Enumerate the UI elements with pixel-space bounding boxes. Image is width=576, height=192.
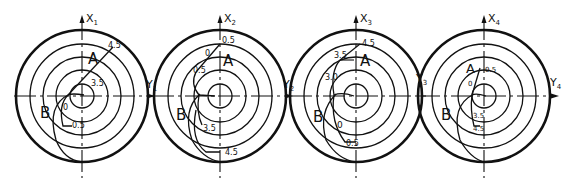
value-label-4d: 4.5: [473, 125, 484, 133]
value-label-4c: 3.5: [473, 112, 484, 120]
polar-diagram-svg: X1 Y1 A B 4.5 3.5 0 0.5 X2 Y2 A B 0.5 0 …: [0, 0, 576, 192]
value-label-4a: 0.5: [485, 66, 496, 74]
value-label-4b: 0: [468, 80, 472, 88]
axis-y-label-3: Y3: [415, 72, 427, 87]
value-label-1a: 4.5: [108, 41, 121, 50]
value-label-2a: 0.5: [222, 36, 235, 45]
diagram-figure: X1 Y1 A B 4.5 3.5 0 0.5 X2 Y2 A B 0.5 0 …: [0, 0, 576, 192]
value-label-3d: 0: [337, 120, 343, 130]
panel-3: [290, 15, 426, 178]
panel-1: [14, 15, 155, 178]
axis-x-label-2: X2: [224, 12, 236, 27]
point-b-label-4: B: [441, 106, 451, 124]
point-a-label-1: A: [88, 50, 99, 68]
value-label-3e: 0.5: [346, 139, 359, 148]
axis-x-label-4: X4: [488, 12, 501, 27]
value-label-1c: 0: [63, 103, 68, 112]
value-label-3c: 3.0: [325, 73, 338, 82]
value-label-2c: 0.5: [193, 66, 206, 75]
value-label-2b: 0: [205, 49, 210, 58]
axis-x-label-1: X1: [86, 12, 98, 27]
value-label-1d: 0.5: [72, 121, 85, 130]
value-label-2e: 4.5: [225, 148, 238, 157]
panel-4: [418, 15, 559, 178]
value-label-3a: 4.5: [362, 39, 375, 48]
axis-x-label-3: X3: [360, 12, 372, 27]
value-label-3b: 3.5: [334, 51, 347, 60]
value-label-1b: 3.5: [91, 79, 104, 88]
point-a-label-2: A: [223, 52, 234, 70]
point-b-label-3: B: [313, 108, 323, 126]
value-label-2d: 3.5: [203, 124, 216, 133]
axis-y-label-4: Y4: [549, 76, 562, 91]
point-a-label-3: A: [360, 52, 371, 70]
point-b-label-2: B: [176, 106, 186, 124]
point-b-label-1: B: [40, 104, 50, 122]
point-a-label-4: A: [466, 61, 475, 76]
